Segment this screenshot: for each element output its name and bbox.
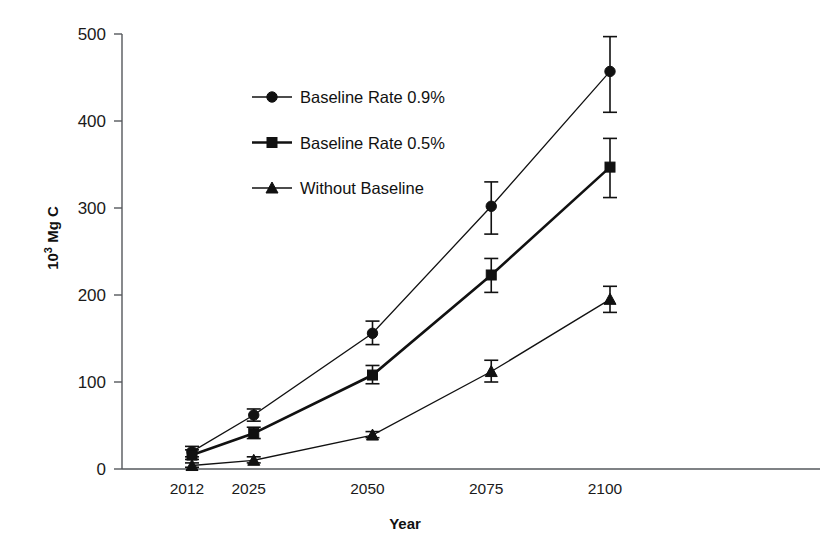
x-axis-tick-label: 2012: [170, 480, 204, 497]
chart-container: 0100200300400500 20122025205020752100 Ba…: [0, 0, 838, 552]
data-point: [367, 328, 377, 338]
legend-marker-square: [267, 138, 277, 148]
data-point: [368, 370, 378, 380]
y-axis-tick-label: 400: [78, 112, 106, 131]
data-point: [486, 270, 496, 280]
data-point: [249, 410, 259, 420]
y-axis-tick-label: 200: [78, 286, 106, 305]
legend-marker-circle: [267, 92, 277, 102]
legend-label: Without Baseline: [300, 179, 424, 197]
data-point: [605, 66, 615, 76]
y-axis-title: 103 Mg C: [42, 206, 61, 270]
x-axis-tick-label: 2025: [232, 480, 266, 497]
svg-text:103 Mg C: 103 Mg C: [42, 206, 61, 270]
x-axis-tick-label: 2100: [588, 480, 623, 497]
x-axis-title: Year: [389, 515, 421, 532]
x-axis-tick-label: 2075: [469, 480, 503, 497]
data-point: [249, 428, 259, 438]
y-axis-tick-label: 500: [78, 25, 106, 44]
legend-label: Baseline Rate 0.9%: [300, 88, 445, 106]
x-axis-tick-label: 2050: [350, 480, 385, 497]
y-axis-tick-label: 100: [78, 373, 106, 392]
y-axis-title-unit: Mg C: [44, 206, 61, 247]
y-axis-title-base: 10: [44, 253, 61, 270]
y-axis-tick-label: 0: [97, 460, 106, 479]
data-point: [605, 162, 615, 172]
line-chart: 0100200300400500 20122025205020752100 Ba…: [0, 0, 838, 552]
data-point: [486, 201, 496, 211]
legend-label: Baseline Rate 0.5%: [300, 134, 445, 152]
y-axis-tick-label: 300: [78, 199, 106, 218]
